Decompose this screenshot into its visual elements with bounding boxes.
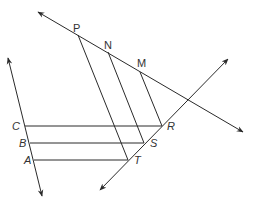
label-A: A xyxy=(24,155,31,166)
label-T: T xyxy=(134,155,141,166)
label-M: M xyxy=(137,58,146,69)
label-N: N xyxy=(104,40,112,51)
label-S: S xyxy=(150,138,157,149)
diagram-canvas xyxy=(0,0,253,213)
label-R: R xyxy=(167,121,175,132)
geometry-diagram: P N M C B A R S T xyxy=(0,0,253,213)
segment-MR xyxy=(140,72,162,126)
label-C: C xyxy=(12,121,20,132)
line-RST xyxy=(100,59,228,190)
label-P: P xyxy=(73,23,80,34)
label-B: B xyxy=(19,138,26,149)
segment-PT xyxy=(78,35,128,160)
